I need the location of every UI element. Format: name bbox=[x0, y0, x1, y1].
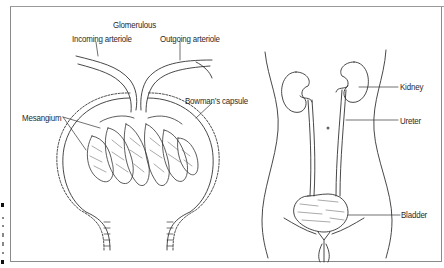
label-mesangium: Mesangium bbox=[22, 113, 61, 123]
glomerulus-illustration bbox=[57, 24, 219, 250]
illustration-canvas bbox=[0, 0, 444, 268]
label-glomerulous: Glomerulous bbox=[113, 20, 156, 30]
label-outgoing-arteriole: Outgoing arteriole bbox=[160, 34, 220, 44]
label-incoming-arteriole: Incoming arteriole bbox=[72, 34, 132, 44]
label-kidney: Kidney bbox=[400, 82, 423, 92]
label-bladder: Bladder bbox=[401, 210, 427, 220]
urinary-system-illustration bbox=[262, 50, 400, 262]
label-bowmans-capsule: Bowman’s capsule bbox=[185, 96, 248, 106]
label-ureter: Ureter bbox=[400, 116, 421, 126]
